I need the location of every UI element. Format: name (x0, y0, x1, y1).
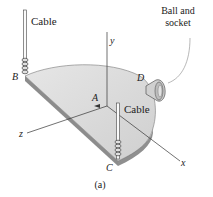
figure-caption: (a) (94, 179, 105, 191)
cable-c-label: Cable (124, 103, 150, 115)
z-axis-label: z (18, 128, 23, 139)
cable-knot-b (22, 58, 28, 74)
cable-b (22, 10, 28, 74)
point-b-label: B (12, 71, 18, 82)
point-a-label: A (91, 92, 99, 103)
ball-socket-label-line2: socket (165, 17, 191, 28)
rigid-body-diagram: Cable Cable Ball and socket A B C D x y … (0, 0, 213, 197)
x-axis-label: x (180, 157, 186, 168)
cable-b-label: Cable (31, 15, 57, 27)
ball-socket-leader (168, 38, 190, 83)
ball-socket-label-line1: Ball and (161, 5, 195, 16)
point-c-label: C (106, 162, 113, 173)
y-axis-label: y (109, 35, 115, 46)
point-d-label: D (136, 72, 145, 83)
